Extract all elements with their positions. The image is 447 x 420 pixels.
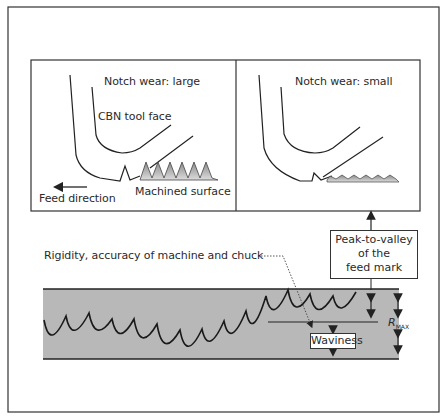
diagram-canvas (0, 0, 447, 420)
left-tool-outline (70, 75, 193, 181)
left-machined-surface (140, 162, 218, 180)
waviness-box: Waviness (310, 333, 356, 349)
right-machined-surface (327, 175, 399, 182)
tool-face-label: CBN tool face (98, 110, 171, 123)
rmax-symbol: R (388, 316, 396, 329)
rmax-subscript: MAX (396, 323, 409, 330)
peak-box-line1: Peak-to-valley (331, 233, 417, 247)
right-panel-title: Notch wear: small (295, 75, 392, 88)
rigidity-label: Rigidity, accuracy of machine and chuck (44, 249, 263, 262)
machined-surface-label: Machined surface (135, 185, 231, 198)
peak-box-line3: feed mark (331, 261, 417, 275)
peak-to-valley-box: Peak-to-valley of the feed mark (330, 230, 418, 279)
left-panel-title: Notch wear: large (104, 75, 200, 88)
peak-box-line2: of the (331, 247, 417, 261)
feed-direction-label: Feed direction (39, 192, 116, 205)
right-tool-outline (259, 75, 383, 181)
rmax-label: RMAX (388, 316, 409, 330)
